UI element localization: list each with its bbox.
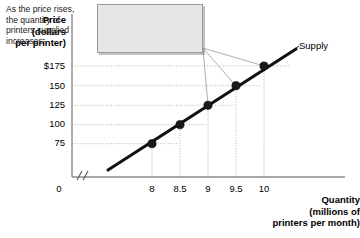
x-axis-title-line-2: (millions of <box>272 206 360 218</box>
callout-line-4: increases. <box>6 36 102 47</box>
data-point <box>204 101 212 109</box>
supply-label-pointer <box>288 46 299 54</box>
gridlines-horizontal <box>72 66 290 144</box>
callout-line-3: printers supplied <box>6 25 102 36</box>
annotation-callout-text: As the price rises, the quantity of prin… <box>6 4 102 46</box>
data-point <box>232 82 240 90</box>
origin-label: 0 <box>50 183 68 194</box>
data-point <box>176 121 184 129</box>
supply-curve-label: Supply <box>299 40 328 51</box>
y-tick-label-75: 75 <box>25 137 65 148</box>
x-axis-title: Quantity (millions of printers per month… <box>272 194 360 229</box>
callout-line-1: As the price rises, <box>6 4 102 15</box>
x-axis-title-line-3: printers per month) <box>272 217 360 229</box>
x-tick-label-8-5: 8.5 <box>165 183 195 194</box>
y-tick-label-125: 125 <box>25 99 65 110</box>
y-tick-label-175: $175 <box>25 60 65 71</box>
x-tick-label-9-5: 9.5 <box>221 183 251 194</box>
x-tick-label-8: 8 <box>137 183 167 194</box>
x-tick-label-9: 9 <box>193 183 223 194</box>
supply-curve-figure: Price (dollars per printer) Quantity (mi… <box>0 0 360 238</box>
x-tick-label-10: 10 <box>249 183 279 194</box>
axis-break-marks <box>77 171 88 180</box>
data-point <box>148 140 156 148</box>
data-point <box>260 62 268 70</box>
gridlines-vertical <box>152 66 264 177</box>
y-tick-label-100: 100 <box>25 118 65 129</box>
callout-line-2: the quantity of <box>6 15 102 26</box>
annotation-callout-box <box>97 4 203 53</box>
y-tick-label-150: 150 <box>25 80 65 91</box>
x-axis-title-line-1: Quantity <box>272 194 360 206</box>
